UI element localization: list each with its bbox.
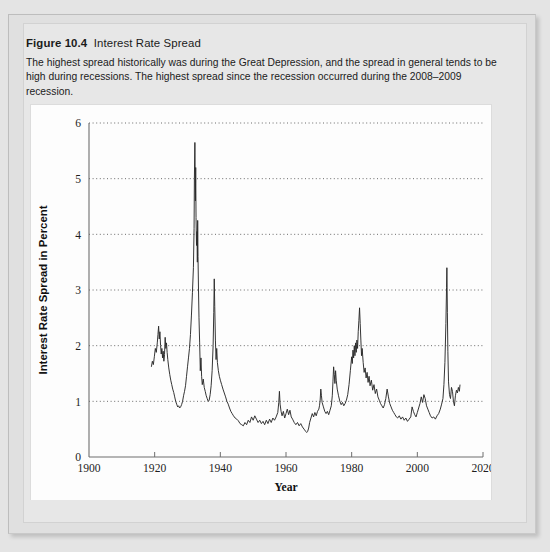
figure-title: Figure 10.4 Interest Rate Spread xyxy=(26,36,506,51)
data-series-line xyxy=(151,142,460,432)
figure-screenshot: Figure 10.4 Interest Rate Spread The hig… xyxy=(0,0,550,552)
figure-caption-block: Figure 10.4 Interest Rate Spread The hig… xyxy=(26,36,506,99)
x-axis-title: Year xyxy=(274,481,297,494)
x-tick-label-1900: 1900 xyxy=(77,462,100,475)
x-tick-label-1940: 1940 xyxy=(209,462,232,475)
x-tick-label-2000: 2000 xyxy=(406,462,429,475)
x-tick-label-2020: 2020 xyxy=(471,462,491,475)
x-tick-label-1960: 1960 xyxy=(274,462,297,475)
y-tick-label-2: 2 xyxy=(75,340,81,353)
figure-name: Interest Rate Spread xyxy=(94,37,201,49)
y-tick-label-4: 4 xyxy=(75,229,81,242)
y-axis-title: Interest Rate Spread in Percent xyxy=(37,205,49,374)
y-tick-label-3: 3 xyxy=(75,284,81,297)
y-tick-label-5: 5 xyxy=(75,173,81,186)
interest-rate-spread-chart: 01234561900192019401960198020002020YearI… xyxy=(31,105,491,499)
x-tick-label-1980: 1980 xyxy=(340,462,363,475)
chart-canvas: 01234561900192019401960198020002020YearI… xyxy=(30,104,492,500)
figure-number: Figure 10.4 xyxy=(26,37,87,49)
figure-description: The highest spread historically was duri… xyxy=(26,56,504,99)
y-tick-label-1: 1 xyxy=(75,396,81,409)
y-tick-label-6: 6 xyxy=(75,117,81,130)
x-tick-label-1920: 1920 xyxy=(143,462,166,475)
